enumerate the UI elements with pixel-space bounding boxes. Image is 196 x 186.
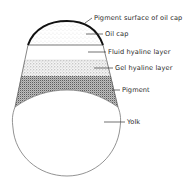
fluid-hyaline-layer-region [24, 45, 107, 60]
egg-diagram: Pigment surface of oil cap Oil cap Fluid… [0, 0, 196, 186]
label-oil-cap: Oil cap [105, 31, 129, 38]
oil-cap-region [28, 21, 103, 45]
label-pigment: Pigment [122, 87, 150, 94]
yolk-region [12, 90, 120, 176]
label-yolk: Yolk [127, 119, 140, 126]
leader-pigment-surface [85, 18, 92, 23]
egg-cross-section-figure [0, 0, 196, 186]
label-gel-hyaline-layer: Gel hyaline layer [115, 65, 172, 72]
label-fluid-hyaline-layer: Fluid hyaline layer [108, 49, 170, 56]
label-pigment-surface-of-oil-cap: Pigment surface of oil cap [94, 15, 182, 22]
